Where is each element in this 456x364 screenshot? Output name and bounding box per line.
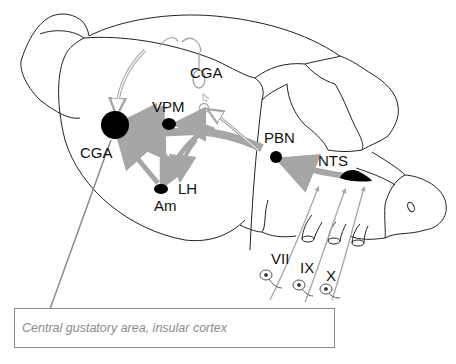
- nucleus-cga: [101, 111, 129, 139]
- label-nerve-ix: IX: [300, 259, 314, 276]
- arrow-am-to-cga: [125, 144, 158, 183]
- label-cga-main: CGA: [80, 144, 113, 161]
- label-lh: LH: [178, 180, 197, 197]
- label-nts: NTS: [318, 152, 348, 169]
- label-pbn: PBN: [264, 129, 295, 146]
- label-nerve-x: X: [326, 267, 336, 284]
- label-vpm: VPM: [152, 98, 185, 115]
- caption-pointer-line: [50, 140, 111, 309]
- caption-text: Central gustatory area, insular cortex: [22, 321, 227, 335]
- nucleus-pbn: [270, 151, 282, 163]
- nucleus-am: [154, 184, 168, 194]
- nucleus-vpm: [162, 118, 176, 130]
- label-cga-top: CGA: [190, 64, 223, 81]
- label-nerve-vii: VII: [271, 250, 289, 267]
- label-am: Am: [154, 197, 177, 214]
- gustatory-pathways: [125, 124, 345, 183]
- cranial-nerve-fibers: [270, 188, 364, 302]
- caption-box: Central gustatory area, insular cortex: [14, 308, 335, 348]
